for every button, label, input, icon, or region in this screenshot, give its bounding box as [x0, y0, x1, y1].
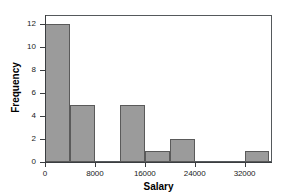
- x-tick-mark: [195, 162, 196, 167]
- histogram-bar: [120, 105, 145, 162]
- histogram-bar: [245, 151, 270, 162]
- x-axis-title: Salary: [45, 181, 272, 192]
- y-tick-mark: [40, 93, 45, 94]
- y-tick-mark: [40, 47, 45, 48]
- x-tick-mark: [95, 162, 96, 167]
- x-tick-label: 16000: [125, 169, 165, 178]
- x-tick-label: 32000: [225, 169, 265, 178]
- x-tick-mark: [45, 162, 46, 167]
- y-tick-mark: [40, 24, 45, 25]
- histogram-bar: [145, 151, 170, 162]
- x-tick-mark: [145, 162, 146, 167]
- y-tick-mark: [40, 70, 45, 71]
- histogram-bar: [170, 139, 195, 162]
- x-tick-label: 8000: [75, 169, 115, 178]
- x-tick-label: 24000: [175, 169, 215, 178]
- histogram-bar: [45, 24, 70, 162]
- x-axis-line: [45, 162, 272, 163]
- y-tick-mark: [40, 116, 45, 117]
- y-axis-line: [45, 15, 46, 162]
- y-axis-title: Frequency: [10, 38, 21, 138]
- y-tick-label: 12: [10, 20, 36, 28]
- histogram-figure: 024681012 08000160002400032000 Salary Fr…: [0, 0, 286, 196]
- y-tick-label: 0: [10, 158, 36, 166]
- x-tick-mark: [245, 162, 246, 167]
- histogram-bar: [70, 105, 95, 162]
- y-tick-mark: [40, 139, 45, 140]
- x-tick-label: 0: [25, 169, 65, 178]
- bars-layer: [45, 15, 272, 162]
